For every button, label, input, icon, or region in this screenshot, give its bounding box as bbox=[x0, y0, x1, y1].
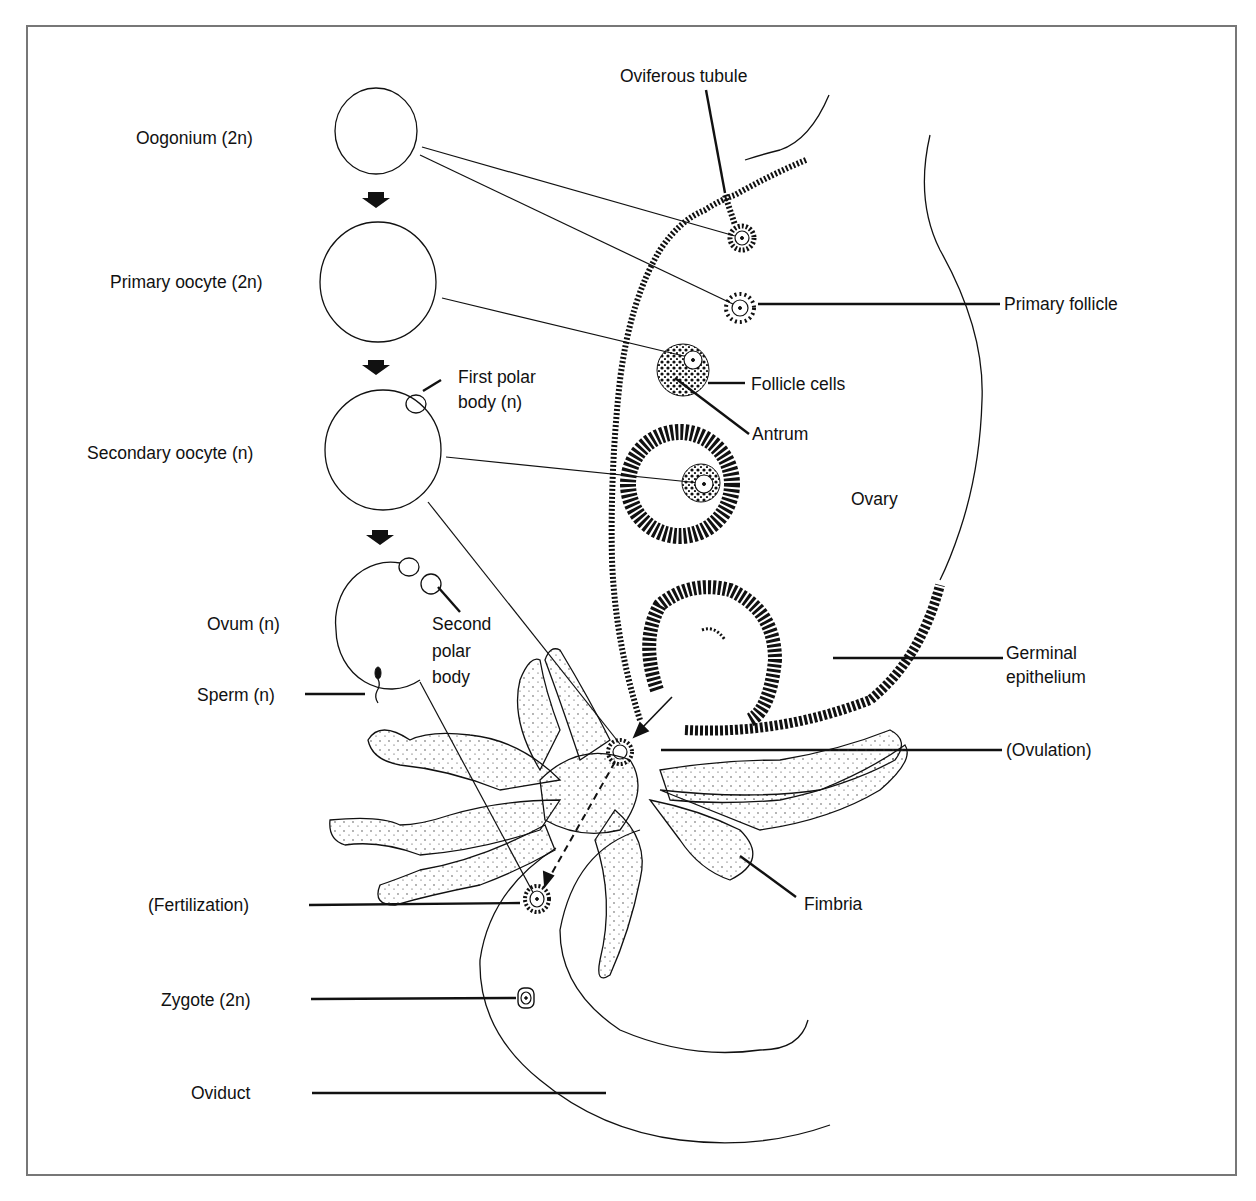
label-first-polar-body-1: First polar bbox=[458, 366, 536, 388]
primary-oocyte-cell bbox=[320, 222, 436, 342]
sperm-icon bbox=[375, 667, 381, 703]
label-ovum: Ovum (n) bbox=[207, 613, 280, 635]
vesicular-follicle bbox=[628, 432, 732, 536]
zygote-cell bbox=[518, 988, 534, 1008]
fertilized-egg bbox=[525, 886, 549, 912]
label-germinal-epithelium-1: Germinal bbox=[1006, 642, 1077, 664]
label-fertilization: (Fertilization) bbox=[148, 894, 249, 916]
label-oviferous-tubule: Oviferous tubule bbox=[620, 65, 747, 87]
stage-arrow-icons bbox=[362, 192, 394, 545]
secondary-follicle bbox=[657, 344, 709, 396]
label-second-polar-body-2: polar bbox=[432, 640, 471, 662]
oogonium-cell bbox=[335, 88, 417, 174]
label-zygote: Zygote (2n) bbox=[161, 989, 250, 1011]
label-sperm: Sperm (n) bbox=[197, 684, 275, 706]
label-ovary: Ovary bbox=[851, 488, 898, 510]
label-follicle-cells: Follicle cells bbox=[751, 373, 845, 395]
label-secondary-oocyte: Secondary oocyte (n) bbox=[87, 442, 253, 464]
label-primary-oocyte: Primary oocyte (2n) bbox=[110, 271, 263, 293]
ovum-cell bbox=[336, 558, 441, 689]
label-second-polar-body-3: body bbox=[432, 666, 470, 688]
label-first-polar-body-2: body (n) bbox=[458, 391, 522, 413]
label-second-polar-body-1: Second bbox=[432, 613, 491, 635]
primary-follicle bbox=[726, 294, 754, 322]
oviferous-follicle bbox=[730, 226, 754, 250]
label-ovulation: (Ovulation) bbox=[1006, 739, 1092, 761]
label-fimbria: Fimbria bbox=[804, 893, 862, 915]
label-oogonium: Oogonium (2n) bbox=[136, 127, 253, 149]
label-germinal-epithelium-2: epithelium bbox=[1006, 666, 1086, 688]
ovulation-arrow-icon bbox=[634, 697, 672, 737]
label-antrum: Antrum bbox=[752, 423, 808, 445]
oogenesis-illustration bbox=[0, 0, 1256, 1201]
secondary-oocyte-cell bbox=[325, 390, 441, 510]
label-primary-follicle: Primary follicle bbox=[1004, 293, 1118, 315]
label-oviduct: Oviduct bbox=[191, 1082, 250, 1104]
fimbriae bbox=[330, 649, 907, 978]
oviduct-tube bbox=[480, 830, 830, 1143]
callout-lines bbox=[305, 90, 1003, 1093]
